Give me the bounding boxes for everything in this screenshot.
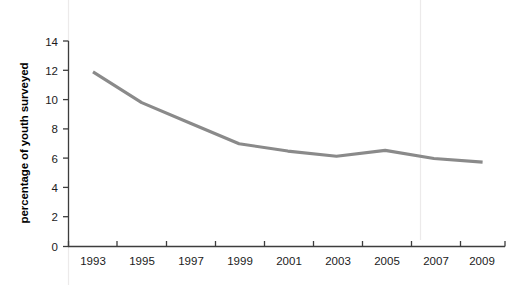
chart-background bbox=[0, 0, 525, 285]
y-tick-label: 10 bbox=[45, 94, 58, 106]
line-chart: percentage of youth surveyed 14 12 10 8 … bbox=[0, 0, 525, 285]
y-axis-title: percentage of youth surveyed bbox=[18, 63, 30, 224]
x-tick-label: 1995 bbox=[129, 255, 155, 267]
x-tick-label: 2003 bbox=[325, 255, 351, 267]
y-tick-label: 4 bbox=[52, 182, 59, 194]
x-tick-label: 2007 bbox=[423, 255, 449, 267]
x-tick-label: 2009 bbox=[469, 255, 495, 267]
x-tick-label: 1999 bbox=[227, 255, 253, 267]
y-tick-label: 8 bbox=[52, 123, 58, 135]
x-tick-label: 2005 bbox=[374, 255, 400, 267]
y-tick-label: 2 bbox=[52, 211, 58, 223]
x-tick-label: 2001 bbox=[276, 255, 302, 267]
y-tick-label: 0 bbox=[52, 241, 58, 253]
x-tick-label: 1997 bbox=[178, 255, 204, 267]
y-tick-label: 14 bbox=[45, 36, 58, 48]
x-tick-label: 1993 bbox=[80, 255, 106, 267]
y-tick-label: 6 bbox=[52, 153, 58, 165]
chart-canvas: percentage of youth surveyed 14 12 10 8 … bbox=[0, 0, 525, 285]
y-tick-label: 12 bbox=[45, 65, 58, 77]
